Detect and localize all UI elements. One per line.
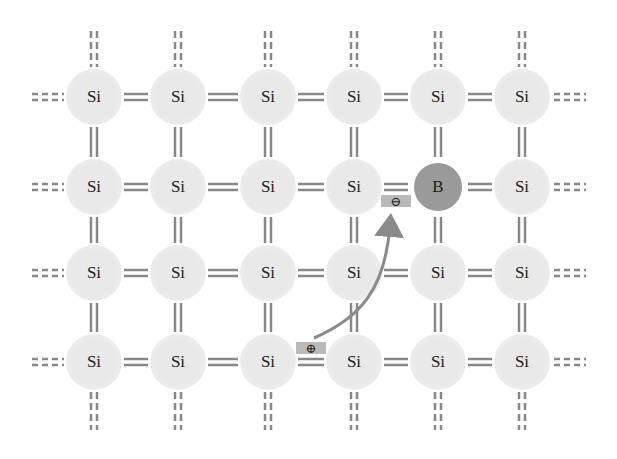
- silicon-lattice-diagram: SiSiSiSiSiSiSiSiSiSiBSiSiSiSiSiSiSiSiSiS…: [0, 0, 617, 459]
- hole-migration-arrow-icon: [0, 0, 617, 459]
